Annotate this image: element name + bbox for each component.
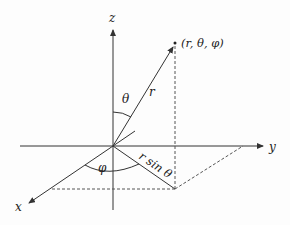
point-dot (174, 42, 177, 45)
diagram-svg: z y x (r, θ, φ) r θ φ r sin θ (0, 0, 290, 225)
r-sin-theta-label: r sin θ (136, 149, 174, 181)
r-label: r (149, 85, 156, 99)
spherical-coordinates-diagram: z y x (r, θ, φ) r θ φ r sin θ (0, 0, 290, 225)
phi-arc (85, 164, 139, 171)
z-label: z (108, 11, 116, 25)
diagonal-dashed-line (175, 146, 243, 189)
stub-line (113, 131, 135, 146)
phi-label: φ (98, 161, 107, 175)
theta-label: θ (122, 92, 130, 106)
point-label: (r, θ, φ) (181, 36, 224, 50)
theta-arc (113, 112, 131, 117)
y-label: y (268, 140, 276, 154)
x-label: x (15, 200, 22, 214)
